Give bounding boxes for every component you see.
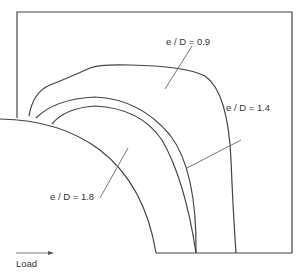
load-arrowhead (48, 251, 54, 255)
stress-contour-diagram (0, 0, 300, 272)
label-e-d-1-8: e / D = 1.8 (50, 191, 94, 202)
boundary-frame (17, 12, 292, 253)
contour-e-d-1-8 (52, 106, 196, 253)
label-load: Load (16, 258, 37, 269)
contour-e-d-1-4 (36, 97, 196, 253)
leader-1-4 (187, 140, 241, 168)
label-e-d-0-9: e / D = 0.9 (166, 36, 210, 47)
pin-hole-arc (0, 119, 156, 253)
label-e-d-1-4: e / D = 1.4 (226, 102, 270, 113)
